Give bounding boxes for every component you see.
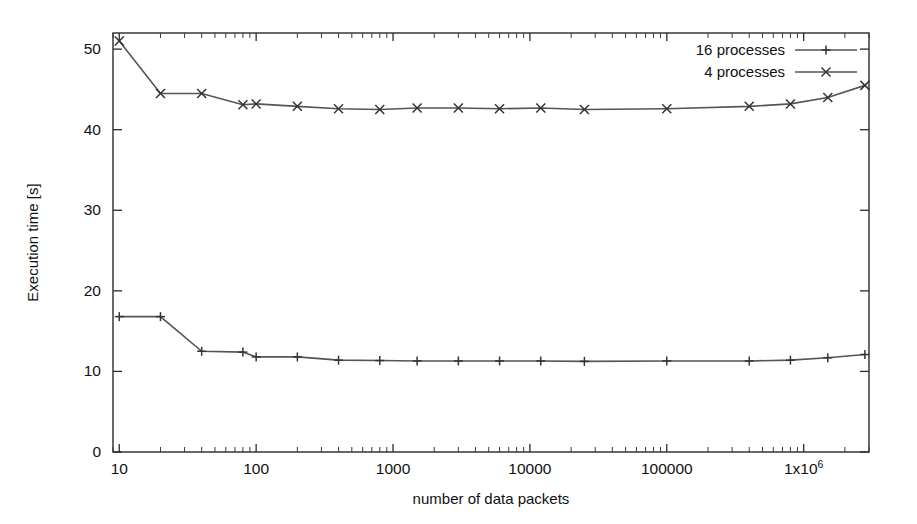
y-tick-label: 50 (84, 40, 102, 57)
x-tick-label: 10 (111, 460, 129, 477)
x-tick-label: 10000 (508, 460, 551, 477)
series-line (119, 317, 865, 362)
y-tick-label: 40 (84, 121, 102, 138)
line-chart: 101001000100001000001x10601020304050numb… (0, 0, 917, 524)
x-axis-title: number of data packets (413, 490, 570, 507)
series-1 (115, 312, 870, 366)
y-tick-label: 20 (84, 282, 102, 299)
x-tick-exponent: 6 (818, 458, 824, 470)
x-tick-label: 1x106 (784, 458, 824, 477)
plot-frame (113, 33, 869, 452)
legend-label-2: 4 processes (704, 63, 785, 80)
x-tick-label: 100 (243, 460, 269, 477)
y-tick-label: 10 (84, 362, 102, 379)
x-tick-label: 1000 (376, 460, 411, 477)
chart-figure: 101001000100001000001x10601020304050numb… (0, 0, 917, 524)
legend-label-1: 16 processes (696, 41, 785, 58)
y-tick-label: 30 (84, 201, 102, 218)
y-tick-label: 0 (92, 443, 101, 460)
y-axis-title: Execution time [s] (24, 183, 41, 301)
x-tick-label: 100000 (641, 460, 693, 477)
